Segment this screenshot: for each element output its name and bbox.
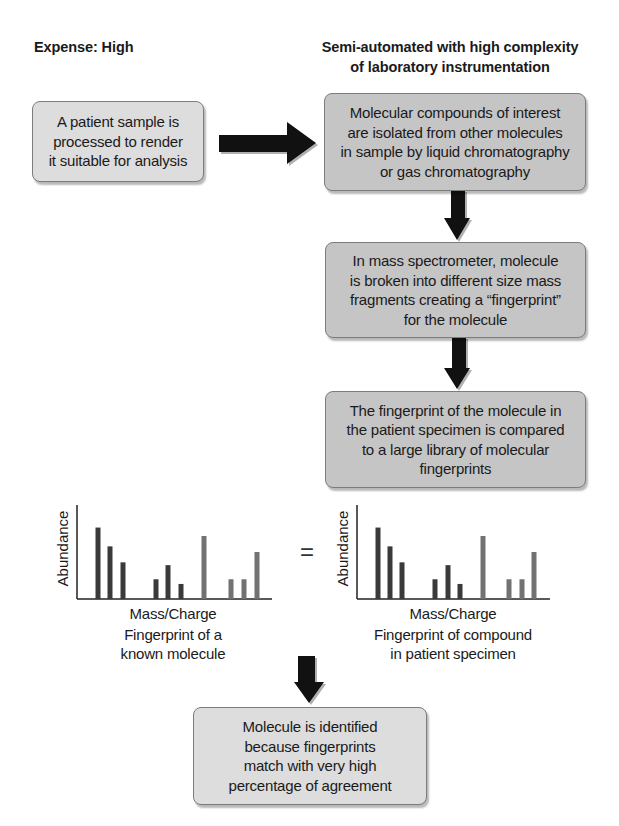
patient-specimen-bar-plot (0, 0, 619, 826)
fragment-bar (532, 552, 537, 599)
y-axis-label: Abundance (334, 509, 351, 589)
fragment-bar (507, 579, 512, 599)
fragment-bar (376, 528, 381, 599)
fragment-bar (481, 536, 486, 599)
fragment-bar (400, 562, 405, 599)
fragment-bar (520, 579, 525, 599)
fragment-bar (433, 579, 438, 599)
fragment-bar (458, 584, 463, 599)
fragment-bar (446, 565, 451, 599)
chart-caption: Fingerprint of compound in patient speci… (353, 625, 553, 663)
fragment-bar (388, 546, 393, 599)
x-axis-label: Mass/Charge (373, 604, 533, 623)
